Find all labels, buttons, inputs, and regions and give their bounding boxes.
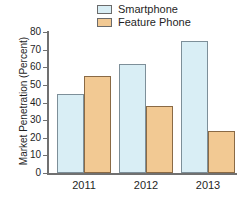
- y-tick-label: 20: [30, 133, 41, 143]
- bar-smartphone-2012: [119, 64, 146, 173]
- y-axis-label: Market Penetration (Percent): [19, 21, 29, 181]
- y-tick-label: 40: [30, 98, 41, 108]
- y-tick-label: 0: [35, 168, 41, 178]
- plot-area: 80706050403020100 201120122013: [47, 32, 237, 173]
- bar-feature-phone-2012: [146, 106, 173, 173]
- y-tick-mark: [43, 120, 48, 121]
- legend-label-feature-phone: Feature Phone: [118, 17, 191, 28]
- bar-smartphone-2011: [57, 94, 84, 173]
- y-tick-mark: [43, 103, 48, 104]
- bar-chart: Smartphone Feature Phone Market Penetrat…: [0, 0, 238, 201]
- y-tick-mark: [43, 155, 48, 156]
- y-tick-label: 10: [30, 150, 41, 160]
- bar-feature-phone-2013: [208, 131, 235, 173]
- y-tick-label: 50: [30, 80, 41, 90]
- bar-smartphone-2013: [181, 41, 208, 173]
- y-tick-label: 30: [30, 115, 41, 125]
- legend-item-smartphone: Smartphone: [97, 3, 227, 15]
- y-tick-mark: [43, 50, 48, 51]
- y-tick-mark: [43, 85, 48, 86]
- chart-legend: Smartphone Feature Phone: [97, 3, 227, 29]
- y-tick-label: 60: [30, 62, 41, 72]
- x-tick-label-2011: 2011: [72, 180, 96, 191]
- legend-swatch-feature-phone: [97, 18, 112, 27]
- legend-label-smartphone: Smartphone: [118, 4, 178, 15]
- x-tick-label-2012: 2012: [134, 180, 158, 191]
- bar-feature-phone-2011: [84, 76, 111, 173]
- y-tick-mark: [43, 138, 48, 139]
- x-tick-label-2013: 2013: [196, 180, 220, 191]
- legend-item-feature-phone: Feature Phone: [97, 16, 227, 28]
- y-tick-mark: [43, 67, 48, 68]
- y-tick-mark: [43, 173, 48, 174]
- x-axis-line: [47, 173, 237, 175]
- y-tick-label: 70: [30, 45, 41, 55]
- y-tick-mark: [43, 32, 48, 33]
- y-tick-label: 80: [30, 27, 41, 37]
- legend-swatch-smartphone: [97, 5, 112, 14]
